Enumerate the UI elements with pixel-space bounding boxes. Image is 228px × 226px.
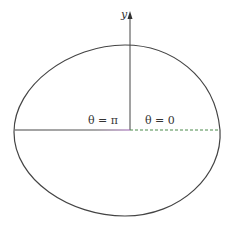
label-theta-pi: θ = π (88, 114, 118, 127)
y-axis-arrow-icon (128, 11, 133, 19)
y-axis-label: y (120, 8, 128, 21)
label-theta-zero: θ = 0 (145, 114, 175, 127)
polar-curve-diagram: y θ = π θ = 0 (0, 0, 228, 226)
